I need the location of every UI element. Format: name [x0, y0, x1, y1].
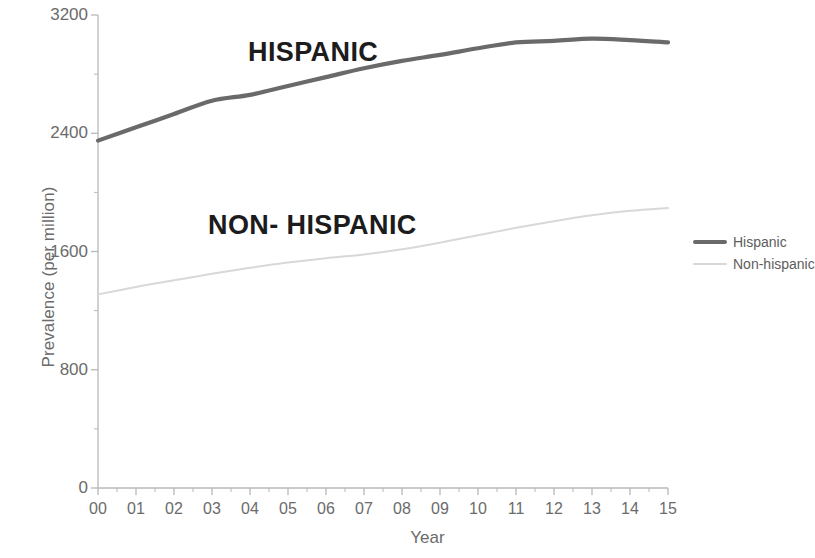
x-tick-label: 09 — [420, 500, 460, 518]
legend-item-hispanic[interactable]: Hispanic — [693, 232, 813, 252]
x-tick-label: 08 — [382, 500, 422, 518]
x-tick-label: 11 — [496, 500, 536, 518]
legend-line-icon-hispanic — [693, 240, 727, 244]
y-tick-label: 3200 — [18, 5, 88, 25]
chart-figure: Prevalence (per million) Year 0800160024… — [0, 0, 815, 558]
x-tick-label: 06 — [306, 500, 346, 518]
x-tick-label: 02 — [154, 500, 194, 518]
x-tick-label: 05 — [268, 500, 308, 518]
chart-canvas — [0, 0, 815, 558]
y-tick-label: 0 — [18, 478, 88, 498]
legend-line-icon-non-hispanic — [693, 263, 727, 265]
x-tick-label: 13 — [572, 500, 612, 518]
plot-area: 0800160024003200 00010203040506070809101… — [98, 15, 668, 488]
legend-label-hispanic: Hispanic — [733, 234, 787, 250]
x-tick-label: 07 — [344, 500, 384, 518]
x-tick-label: 15 — [648, 500, 688, 518]
x-tick-label: 10 — [458, 500, 498, 518]
x-tick-label: 04 — [230, 500, 270, 518]
x-tick-label: 12 — [534, 500, 574, 518]
y-tick-label: 2400 — [18, 123, 88, 143]
x-tick-label: 14 — [610, 500, 650, 518]
series-line-hispanic — [98, 39, 668, 141]
x-tick-label: 01 — [116, 500, 156, 518]
y-tick-label: 800 — [18, 360, 88, 380]
annotation-hispanic: HISPANIC — [248, 37, 378, 68]
y-tick-label: 1600 — [18, 242, 88, 262]
x-tick-labels: 00010203040506070809101112131415 — [98, 488, 668, 518]
legend-item-non-hispanic[interactable]: Non-hispanic — [693, 254, 813, 274]
annotation-non-hispanic: NON- HISPANIC — [208, 210, 417, 241]
x-tick-label: 03 — [192, 500, 232, 518]
axis-lines — [91, 15, 668, 495]
series-lines — [98, 39, 668, 295]
legend-label-non-hispanic: Non-hispanic — [733, 256, 815, 272]
y-tick-labels: 0800160024003200 — [16, 15, 88, 488]
x-tick-label: 00 — [78, 500, 118, 518]
chart-legend: Hispanic Non-hispanic — [693, 232, 813, 276]
